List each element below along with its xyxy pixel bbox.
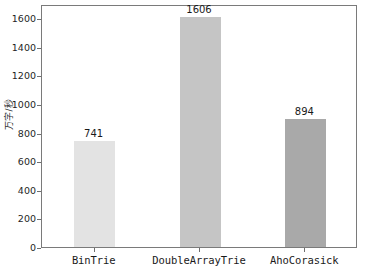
- y-tick-mark: [37, 105, 41, 106]
- y-tick-label: 600: [0, 157, 36, 167]
- plot-area: [41, 5, 357, 248]
- x-axis-ticklabels: BinTrieDoubleArrayTrieAhoCorasick: [0, 254, 366, 274]
- x-tick-mark: [94, 248, 95, 252]
- bar: [285, 119, 326, 247]
- y-tick-label: 200: [0, 215, 36, 225]
- x-tick-label: DoubleArrayTrie: [152, 254, 245, 266]
- bar-value-label: 894: [295, 107, 314, 117]
- y-tick-label: 800: [0, 129, 36, 139]
- bar-value-label: 1606: [186, 5, 211, 15]
- y-tick-mark: [37, 162, 41, 163]
- y-tick-label: 1000: [0, 100, 36, 110]
- y-tick-mark: [37, 19, 41, 20]
- y-axis-ticklabels: 02004006008001000120014001600: [0, 0, 36, 275]
- y-tick-mark: [37, 248, 41, 249]
- y-tick-label: 0: [0, 243, 36, 253]
- y-tick-mark: [37, 76, 41, 77]
- bars-layer: [42, 6, 356, 247]
- y-tick-mark: [37, 219, 41, 220]
- y-tick-label: 1400: [0, 43, 36, 53]
- bar: [74, 141, 115, 247]
- bar: [180, 17, 221, 247]
- x-tick-mark: [304, 248, 305, 252]
- x-tick-mark: [199, 248, 200, 252]
- bar-value-label: 741: [84, 129, 103, 139]
- x-tick-label: AhoCorasick: [270, 254, 338, 266]
- y-tick-label: 1200: [0, 72, 36, 82]
- y-tick-mark: [37, 48, 41, 49]
- y-tick-label: 400: [0, 186, 36, 196]
- y-tick-label: 1600: [0, 15, 36, 25]
- x-tick-label: BinTrie: [72, 254, 116, 266]
- bar-chart: 万字/秒 02004006008001000120014001600 BinTr…: [0, 0, 366, 275]
- y-tick-mark: [37, 191, 41, 192]
- y-tick-mark: [37, 134, 41, 135]
